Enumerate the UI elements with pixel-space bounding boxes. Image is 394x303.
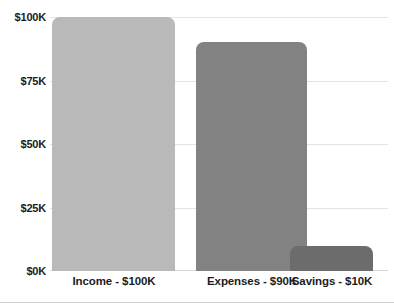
bar-chart: $100K $75K $50K $25K $0K Income - $100K … xyxy=(0,0,394,303)
bar-group xyxy=(50,17,388,271)
bar-income[interactable] xyxy=(52,17,175,271)
plot-area xyxy=(50,17,388,271)
y-tick-label-0k: $0K xyxy=(0,266,46,277)
y-tick-label-50k: $50K xyxy=(0,139,46,150)
bar-savings[interactable] xyxy=(290,246,373,271)
x-tick-label-income: Income - $100K xyxy=(52,275,176,288)
y-tick-label-100k: $100K xyxy=(0,12,46,23)
bar-expenses[interactable] xyxy=(196,42,307,271)
x-tick-label-savings: Savings - $10K xyxy=(290,275,374,288)
y-tick-label-75k: $75K xyxy=(0,76,46,87)
y-tick-label-25k: $25K xyxy=(0,203,46,214)
